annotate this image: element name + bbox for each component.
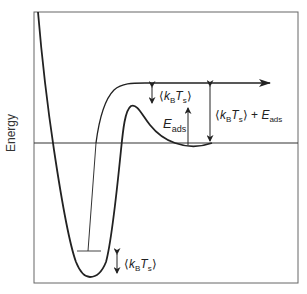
thermal-energy-label-top: ⟨kBTs⟩ <box>159 89 192 105</box>
adsorption-energy-label: Eads <box>163 116 187 134</box>
thermal-energy-label-well: ⟨kBTs⟩ <box>124 257 157 273</box>
potential-curve <box>38 12 212 277</box>
energy-diagram: ⟨kBTs⟩ Eads ⟨kBTs⟩ + Eads ⟨kBTs⟩ <box>0 0 307 294</box>
trajectory-thin-line <box>88 143 96 251</box>
total-energy-label: ⟨kBTs⟩ + Eads <box>215 108 282 124</box>
plot-frame <box>34 12 298 283</box>
